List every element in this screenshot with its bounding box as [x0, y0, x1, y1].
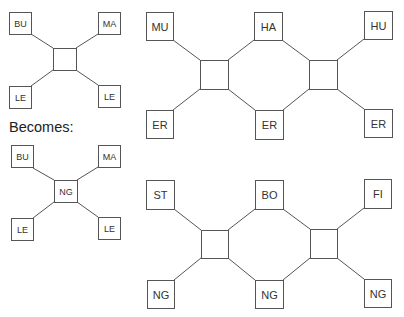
node-er-right: ER	[364, 109, 393, 138]
node-le-left: LE	[11, 218, 34, 241]
hub-right	[310, 229, 338, 259]
node-er-mid: ER	[255, 110, 284, 140]
node-ma: MA	[98, 145, 121, 168]
node-bu: BU	[9, 12, 32, 35]
node-bo: BO	[255, 180, 284, 210]
hub-right	[309, 60, 338, 90]
node-ma: MA	[98, 12, 121, 35]
node-le-right: LE	[98, 217, 121, 240]
node-st: ST	[146, 180, 175, 210]
node-ha: HA	[254, 12, 283, 41]
node-ng-right: NG	[364, 279, 392, 308]
node-er-left: ER	[146, 110, 174, 139]
hub-left	[200, 60, 229, 90]
hub-left	[201, 230, 229, 259]
node-ng-left: NG	[147, 280, 175, 309]
hub-ng: NG	[54, 180, 78, 203]
hub-empty	[53, 48, 77, 71]
node-le-right: LE	[98, 85, 121, 108]
node-hu: HU	[364, 11, 393, 40]
node-ng-mid: NG	[255, 280, 284, 309]
node-le-left: LE	[9, 86, 32, 109]
becomes-caption: Becomes:	[9, 119, 73, 135]
node-bu: BU	[11, 145, 34, 168]
node-fi: FI	[364, 179, 392, 209]
node-mu: MU	[146, 12, 174, 41]
